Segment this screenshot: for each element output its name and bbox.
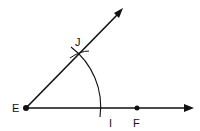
ray-ej xyxy=(26,13,119,108)
arrowhead-right-icon xyxy=(184,104,194,112)
point-e xyxy=(23,105,29,111)
label-e: E xyxy=(12,102,19,114)
angle-diagram: E J I F xyxy=(0,0,200,131)
point-f xyxy=(135,106,140,111)
label-i: I xyxy=(109,117,112,129)
label-f: F xyxy=(133,117,140,129)
label-j: J xyxy=(75,36,81,48)
